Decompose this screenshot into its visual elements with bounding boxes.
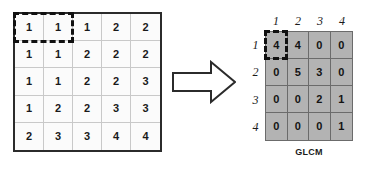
glcm-cell: 0 (266, 59, 288, 86)
glcm-row-header: 1 (247, 31, 264, 59)
image-cell: 1 (15, 41, 44, 68)
glcm-cell: 2 (309, 86, 331, 113)
image-cell: 2 (102, 68, 131, 95)
image-cell: 2 (15, 123, 44, 150)
glcm-col-header: 3 (309, 12, 331, 30)
image-cell: 2 (73, 96, 102, 123)
glcm-cell: 4 (266, 32, 288, 59)
glcm-cell: 3 (309, 59, 331, 86)
glcm-cell: 0 (309, 113, 331, 140)
glcm-col-header: 2 (287, 12, 309, 30)
image-cell: 3 (102, 96, 131, 123)
image-cell: 4 (102, 123, 131, 150)
glcm-row-headers: 1 2 3 4 (247, 31, 264, 141)
image-cell: 2 (73, 41, 102, 68)
image-cell: 2 (131, 41, 160, 68)
image-pixel-matrix: 1 1 1 2 2 1 1 2 2 2 1 1 2 2 3 1 2 2 3 3 … (13, 12, 162, 152)
glcm-cell: 1 (331, 113, 353, 140)
glcm-column-headers: 1 2 3 4 (265, 12, 353, 30)
image-cell: 1 (44, 14, 73, 41)
image-cell: 1 (44, 41, 73, 68)
glcm-cell: 0 (331, 32, 353, 59)
image-cell: 2 (102, 14, 131, 41)
image-cell: 1 (73, 14, 102, 41)
image-cell: 3 (44, 123, 73, 150)
glcm-cell: 0 (288, 86, 310, 113)
glcm-cell: 0 (331, 59, 353, 86)
image-cell: 3 (131, 96, 160, 123)
glcm-col-header: 4 (331, 12, 353, 30)
image-cell: 2 (73, 68, 102, 95)
image-cell: 1 (44, 68, 73, 95)
glcm-cell: 4 (288, 32, 310, 59)
image-cell: 1 (15, 68, 44, 95)
image-cell: 3 (131, 68, 160, 95)
image-cell: 2 (102, 41, 131, 68)
image-cell: 4 (131, 123, 160, 150)
glcm-cell: 1 (331, 86, 353, 113)
glcm-col-header: 1 (265, 12, 287, 30)
glcm-cell: 0 (266, 113, 288, 140)
right-arrow-icon (172, 60, 236, 104)
image-cell: 3 (73, 123, 102, 150)
glcm-matrix: 4 4 0 0 0 5 3 0 0 0 2 1 0 0 0 1 (265, 31, 353, 141)
glcm-cell: 0 (288, 113, 310, 140)
glcm-row-header: 4 (247, 114, 264, 142)
image-cell: 1 (15, 14, 44, 41)
image-cell: 1 (15, 96, 44, 123)
image-cell: 2 (131, 14, 160, 41)
glcm-cell: 0 (266, 86, 288, 113)
glcm-row-header: 2 (247, 59, 264, 87)
image-cell: 2 (44, 96, 73, 123)
glcm-cell: 0 (309, 32, 331, 59)
glcm-cell: 5 (288, 59, 310, 86)
glcm-block: 1 2 3 4 1 2 3 4 4 4 0 0 0 5 3 0 0 0 2 1 … (247, 12, 359, 164)
glcm-row-header: 3 (247, 86, 264, 114)
glcm-caption: GLCM (265, 147, 353, 157)
